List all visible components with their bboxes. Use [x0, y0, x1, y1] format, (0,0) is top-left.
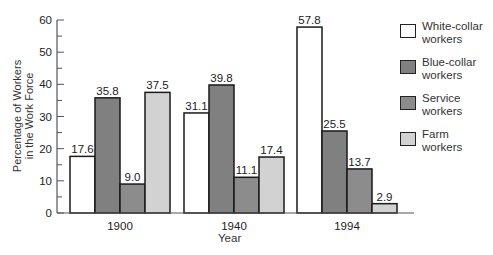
data-label: 13.7: [348, 156, 370, 168]
data-label: 35.8: [96, 85, 118, 97]
data-label: 17.6: [71, 143, 93, 155]
y-tick-label: 60: [39, 14, 52, 26]
bar: [120, 184, 145, 213]
bar: [372, 204, 397, 213]
y-tick-label: 50: [39, 46, 52, 58]
bar: [145, 92, 170, 213]
data-label: 57.8: [298, 14, 320, 26]
y-tick-label: 10: [39, 175, 52, 187]
data-label: 31.1: [185, 100, 207, 112]
y-tick-label: 40: [39, 78, 52, 90]
legend-swatch: [400, 24, 416, 38]
bar: [70, 156, 95, 213]
bar: [209, 85, 234, 213]
y-axis-label-line1: Percentage of Workers: [11, 41, 23, 191]
plot-area: 010203040506017.635.89.037.5190031.139.8…: [0, 0, 493, 255]
legend-label: workers: [422, 105, 493, 118]
legend-label: Blue-collar: [422, 56, 493, 69]
x-tick-label: 1900: [107, 220, 133, 232]
x-tick-label: 1994: [334, 220, 360, 232]
bar: [347, 169, 372, 213]
y-axis-label: Percentage of Workers in the Work Force: [11, 41, 35, 191]
legend-label: Service: [422, 92, 493, 105]
legend-label: workers: [422, 69, 493, 82]
bar: [95, 98, 120, 213]
bar: [259, 157, 284, 213]
data-label: 11.1: [236, 164, 258, 176]
x-axis-label: Year: [218, 232, 241, 244]
legend-label: workers: [422, 33, 493, 46]
y-tick-label: 20: [39, 143, 52, 155]
data-label: 9.0: [125, 171, 141, 183]
legend-label: White-collar: [422, 20, 493, 33]
x-tick-label: 1940: [221, 220, 247, 232]
data-label: 39.8: [210, 72, 232, 84]
data-label: 25.5: [323, 118, 345, 130]
data-label: 37.5: [146, 79, 168, 91]
y-axis-label-line2: in the Work Force: [23, 41, 35, 191]
legend-label: workers: [422, 141, 493, 154]
legend-swatch: [400, 60, 416, 74]
bar: [322, 131, 347, 213]
data-label: 2.9: [377, 191, 393, 203]
bar: [297, 27, 322, 213]
bar-chart: 010203040506017.635.89.037.5190031.139.8…: [0, 0, 493, 255]
legend-swatch: [400, 96, 416, 110]
y-tick-label: 0: [46, 207, 52, 219]
bar: [234, 177, 259, 213]
legend-label: Farm: [422, 128, 493, 141]
bar: [184, 113, 209, 213]
data-label: 17.4: [260, 144, 283, 156]
y-tick-label: 30: [39, 111, 52, 123]
legend-swatch: [400, 132, 416, 146]
